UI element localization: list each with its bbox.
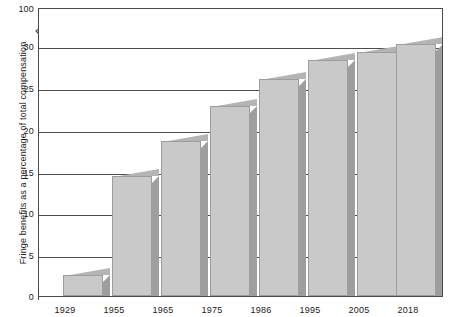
- y-tick-label-10: 10: [8, 209, 34, 219]
- bar-side: [103, 275, 110, 296]
- x-tick-label-1986: 1986: [251, 305, 272, 315]
- bar-2018: [396, 44, 436, 296]
- y-tick-label-15: 15: [8, 168, 34, 178]
- bar-1929: [63, 275, 103, 296]
- bar-chart: Fringe benefits as a percentage of total…: [0, 0, 451, 317]
- bar-1955: [112, 176, 152, 296]
- bar-face: [396, 44, 436, 296]
- y-tick-label-25: 25: [8, 84, 34, 94]
- x-tick-label-1929: 1929: [55, 305, 76, 315]
- bar-2005: [357, 52, 397, 296]
- bar-top: [217, 99, 257, 106]
- bar-top: [70, 268, 110, 275]
- bar-top: [168, 134, 208, 141]
- bar-face: [308, 60, 348, 296]
- bar-side: [201, 141, 208, 296]
- bar-1975: [210, 106, 250, 296]
- bar-side: [152, 176, 159, 296]
- x-tick-label-2005: 2005: [349, 305, 370, 315]
- bar-top: [266, 72, 306, 79]
- bar-side: [299, 79, 306, 296]
- bar-face: [63, 275, 103, 296]
- y-tick-label-0: 0: [8, 292, 34, 302]
- y-axis-tick-labels: 100 30 25 20 15 10 5 0: [6, 0, 34, 317]
- bar-top: [315, 53, 355, 60]
- x-tick-label-2018: 2018: [398, 305, 419, 315]
- bar-face: [161, 141, 201, 296]
- y-tick-label-5: 5: [8, 251, 34, 261]
- bar-face: [259, 79, 299, 296]
- x-tick-label-1975: 1975: [202, 305, 223, 315]
- gridline-30: [39, 48, 442, 49]
- y-tick-label-30: 30: [8, 42, 34, 52]
- bar-1965: [161, 141, 201, 296]
- x-tick-label-1995: 1995: [300, 305, 321, 315]
- bar-face: [357, 52, 397, 296]
- bar-1986: [259, 79, 299, 296]
- bar-face: [112, 176, 152, 296]
- bar-side: [250, 106, 257, 296]
- x-tick-label-1955: 1955: [104, 305, 125, 315]
- y-tick-label-100: 100: [8, 4, 34, 14]
- plot-area: [38, 8, 443, 297]
- bar-1995: [308, 60, 348, 296]
- y-tick-label-20: 20: [8, 126, 34, 136]
- bar-side: [436, 44, 443, 296]
- bar-side: [348, 60, 355, 296]
- bar-face: [210, 106, 250, 296]
- bar-top: [403, 37, 443, 44]
- x-tick-label-1965: 1965: [153, 305, 174, 315]
